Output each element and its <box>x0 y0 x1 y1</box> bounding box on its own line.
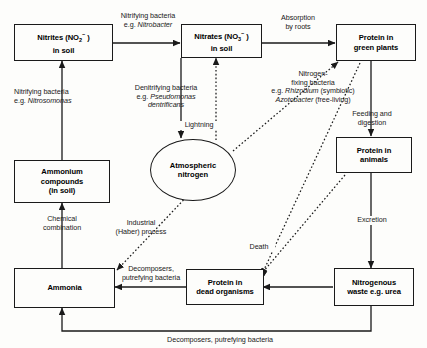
denitrifying-line3: dentrificans <box>148 100 184 109</box>
absorption-line2: by roots <box>285 22 310 31</box>
node-protein-green-plants: Protein ingreen plants <box>336 24 416 61</box>
node-atmospheric-nitrogen-label: Atmosphericnitrogen <box>170 161 216 180</box>
node-atmospheric-nitrogen: Atmosphericnitrogen <box>150 139 236 201</box>
node-nitrites-label: Nitrites (NO2− )in soil <box>37 30 89 55</box>
edge-bottom-decomposers-loop <box>62 306 371 331</box>
node-ammonium-compounds: Ammoniumcompounds(in soil) <box>14 160 110 203</box>
edge-label-nitrifying-nitrosomonas: Nitrifying bacteria e.g. Nitrosomonas <box>14 88 106 105</box>
nfix-line4: Azotobacter (free-living) <box>275 95 350 104</box>
edge-label-denitrifying-pseudomonas: Denitrifying bacteria e.g. Pseudomonas d… <box>120 84 212 110</box>
node-protein-green-plants-label: Protein ingreen plants <box>354 33 399 52</box>
chemical-line2: combination <box>43 223 81 232</box>
node-nitrates-label: Nitrates (NO3− )in soil <box>194 29 248 54</box>
edge-label-decomposers-bottom: Decomposers, putrefying bacteria <box>140 336 300 345</box>
node-protein-dead-organisms: Protein indead organisms <box>186 269 264 305</box>
edge-label-excretion: Excretion <box>345 216 399 225</box>
node-ammonia: Ammonia <box>14 268 115 308</box>
edge-label-nitrobacter-line2: e.g. Nitrobacter <box>124 20 172 29</box>
edge-label-nitrifying-nitrobacter: Nitrifying bacteria e.g. Nitrobacter <box>103 12 193 29</box>
industrial-line2: (Haber) process <box>116 227 167 236</box>
node-ammonium-compounds-label: Ammoniumcompounds(in soil) <box>41 167 84 195</box>
edge-label-chemical-combination: Chemical combination <box>30 215 94 232</box>
nitrosomonas-line2: e.g. Nitrosomonas <box>14 96 72 105</box>
node-protein-animals-label: Protein inanimals <box>357 146 392 165</box>
edge-death-animals-to-dead-organisms <box>263 175 345 272</box>
node-ammonia-label: Ammonia <box>47 283 81 292</box>
edge-label-death: Death <box>243 243 275 252</box>
edge-label-absorption-by-roots: Absorption by roots <box>266 14 330 31</box>
node-nitrogenous-waste: Nitrogenouswaste e.g. urea <box>334 268 414 306</box>
node-nitrogenous-waste-label: Nitrogenouswaste e.g. urea <box>347 278 401 297</box>
edge-label-feeding-and-digestion: Feeding and digestion <box>342 110 402 127</box>
nitrogen-cycle-diagram: Nitrites (NO2− )in soil Nitrates (NO3− )… <box>0 0 427 348</box>
node-protein-animals: Protein inanimals <box>336 137 412 173</box>
edge-label-industrial-haber-process: Industrial (Haber) process <box>105 219 177 236</box>
edge-label-lightning: Lightning <box>179 121 219 130</box>
node-nitrites: Nitrites (NO2− )in soil <box>14 24 113 61</box>
node-protein-dead-organisms-label: Protein indead organisms <box>196 278 254 297</box>
feeding-line2: digestion <box>358 118 386 127</box>
edge-label-decomposers-putrefying: Decomposers, putrefying bacteria <box>114 265 188 282</box>
node-nitrates: Nitrates (NO3− )in soil <box>181 24 262 58</box>
edge-label-nitrogen-fixing-bacteria: Nitrogen- fixing bacteria e.g. Rhizobium… <box>248 70 378 104</box>
decomposers-line2: putrefying bacteria <box>122 273 180 282</box>
